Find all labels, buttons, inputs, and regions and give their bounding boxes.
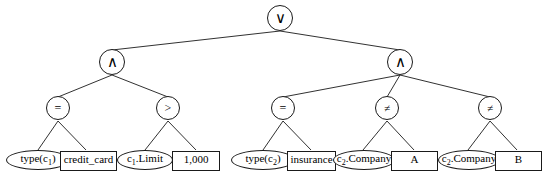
leaf-type-c2: type(c2) <box>231 150 295 170</box>
edge-neq1-to-value-a <box>387 121 414 150</box>
leaf-type-c1-label: type(c1) <box>19 152 56 167</box>
edge-root-to-and-right <box>280 31 400 50</box>
equals-operator-2-label: = <box>280 102 287 114</box>
edge-and-left-to-gt1 <box>112 75 168 97</box>
edge-gt1-to-c1-limit <box>145 121 168 150</box>
and-operator-right-label: ∧ <box>395 55 406 70</box>
edge-neq2-to-value-b <box>490 121 517 150</box>
edge-neq2-to-c2-company-b <box>468 121 490 150</box>
edge-eq1-to-type-c1 <box>38 121 58 150</box>
leaf-type-c2-label: type(c2) <box>244 152 281 167</box>
and-operator-left-label: ∧ <box>107 55 118 70</box>
greater-than-operator-label: > <box>165 102 172 114</box>
edge-and-right-to-neq2 <box>400 75 490 97</box>
leaf-credit-card: credit_card <box>60 151 117 171</box>
leaf-c1-limit-label: c1.Limit <box>126 152 164 167</box>
leaf-insurance-label: insurance <box>289 153 333 168</box>
edge-root-to-and-left <box>112 31 280 50</box>
leaf-value-a: A <box>391 151 438 171</box>
leaf-value-b: B <box>495 151 542 171</box>
not-equals-operator-1: ≠ <box>375 96 399 120</box>
greater-than-operator: > <box>156 96 180 120</box>
edge-and-right-to-neq1 <box>387 75 400 97</box>
and-operator-left: ∧ <box>99 49 125 75</box>
leaf-1000: 1,000 <box>172 151 220 171</box>
leaf-1000-label: 1,000 <box>183 153 210 168</box>
expression-tree-diagram: ∨ ∧ ∧ = > = ≠ ≠ type(c1) credit_card c1.… <box>0 0 555 174</box>
leaf-c1-limit: c1.Limit <box>117 150 173 170</box>
leaf-c2-company-b-label: c2.Company <box>441 152 497 167</box>
edge-neq1-to-c2-company-a <box>363 121 387 150</box>
leaf-c2-company-b: c2.Company <box>438 150 500 170</box>
not-equals-operator-1-label: ≠ <box>384 103 390 114</box>
leaf-insurance: insurance <box>287 151 336 171</box>
not-equals-operator-2: ≠ <box>478 96 502 120</box>
equals-operator-2: = <box>271 96 295 120</box>
and-operator-right: ∧ <box>387 49 413 75</box>
edge-eq2-to-type-c2 <box>263 121 283 150</box>
leaf-c2-company-a: c2.Company <box>333 150 395 170</box>
not-equals-operator-2-label: ≠ <box>487 103 493 114</box>
or-operator: ∨ <box>267 5 293 31</box>
leaf-value-a-label: A <box>410 153 420 168</box>
equals-operator-1-label: = <box>55 102 62 114</box>
edge-eq2-to-insurance <box>283 121 311 150</box>
equals-operator-1: = <box>46 96 70 120</box>
or-operator-label: ∨ <box>275 11 286 26</box>
edge-gt1-to-1000 <box>168 121 196 150</box>
edge-and-right-to-eq2 <box>283 75 400 97</box>
leaf-c2-company-a-label: c2.Company <box>336 152 392 167</box>
leaf-credit-card-label: credit_card <box>63 153 114 168</box>
leaf-value-b-label: B <box>514 153 523 168</box>
edge-eq1-to-credit-card <box>58 121 86 150</box>
edge-and-left-to-eq1 <box>58 75 112 97</box>
